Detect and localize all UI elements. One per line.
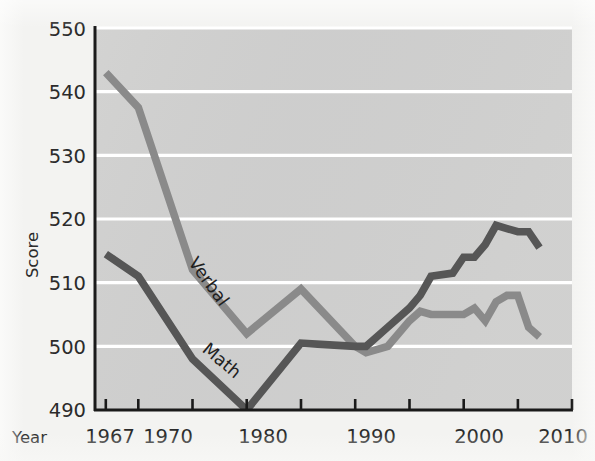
sat-score-trend-chart: 550 540 530 520 510 500 490 1967 1970 19… <box>0 0 595 461</box>
ytick-label-500: 500 <box>49 336 86 359</box>
ytick-label-540: 540 <box>49 81 86 104</box>
ytick-label-530: 530 <box>49 145 86 168</box>
xtick-label-2000: 2000 <box>454 425 504 448</box>
line-chart-svg: 550 540 530 520 510 500 490 1967 1970 19… <box>0 0 595 461</box>
ytick-label-490: 490 <box>49 399 86 422</box>
x-axis-title: Year <box>11 428 47 447</box>
xtick-label-1980: 1980 <box>238 425 288 448</box>
ytick-label-510: 510 <box>49 272 86 295</box>
ytick-label-520: 520 <box>49 208 86 231</box>
xtick-label-1970: 1970 <box>143 425 193 448</box>
xtick-label-2010: 2010 <box>538 425 588 448</box>
y-axis-title: Score <box>23 232 42 278</box>
chart-page: 550 540 530 520 510 500 490 1967 1970 19… <box>0 0 595 461</box>
xtick-label-1967: 1967 <box>85 425 135 448</box>
xtick-label-1990: 1990 <box>346 425 396 448</box>
ytick-label-550: 550 <box>49 18 86 41</box>
